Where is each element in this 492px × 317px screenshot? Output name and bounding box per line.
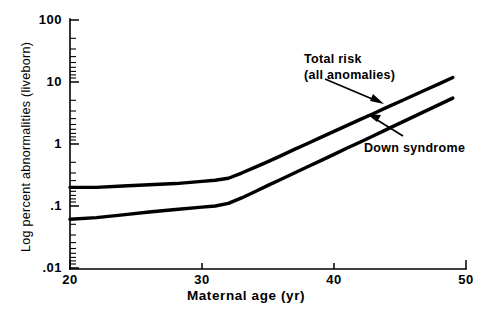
x-axis-ticks	[70, 260, 466, 269]
annotation-total-risk-line2: (all anomalies)	[304, 68, 395, 84]
annotation-down-syndrome: Down syndrome	[364, 141, 465, 157]
x-tick-label-20: 20	[50, 272, 90, 287]
x-axis-title: Maternal age (yr)	[0, 288, 492, 303]
annotation-total-risk-line1: Total risk	[304, 52, 395, 68]
annotation-down-syndrome-line1: Down syndrome	[364, 141, 465, 157]
x-tick-label-40: 40	[314, 272, 354, 287]
chart-plot-area	[0, 0, 492, 317]
curve-down-syndrome	[70, 98, 453, 219]
y-axis-title: Log percent abnormalities (liveborn)	[19, 17, 33, 277]
y-axis-major-ticks	[70, 20, 79, 268]
annotation-total-risk: Total risk (all anomalies)	[304, 52, 395, 83]
chart-figure: 100 10 1 .1 .01 20 30 40 50 Maternal age…	[0, 0, 492, 317]
curve-total-risk	[70, 78, 453, 188]
x-tick-label-50: 50	[446, 272, 486, 287]
y-axis-minor-ticks	[70, 38, 76, 264]
x-tick-label-30: 30	[182, 272, 222, 287]
